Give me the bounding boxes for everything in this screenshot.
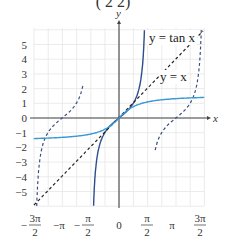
x-tick-numerator: 3π: [29, 212, 41, 224]
x-tick-numerator: π: [85, 212, 91, 224]
x-tick-label: −π: [53, 219, 65, 231]
x-tick-denominator: 2: [144, 226, 150, 238]
y-tick-label: −5: [15, 186, 27, 198]
x-tick-label: 0: [116, 219, 122, 231]
x-tick-denominator: 2: [197, 226, 203, 238]
y-tick-label: 5: [22, 39, 28, 51]
chart: ( 2 2) xy 543210−1−2−3−4−53π2−−ππ2−0π2π3…: [0, 0, 226, 242]
identity-curve-label: y = x: [160, 69, 187, 84]
y-axis-label: y: [115, 7, 121, 19]
y-tick-label: −1: [15, 127, 27, 139]
x-axis-label: x: [212, 112, 218, 124]
y-tick-label: 0: [22, 112, 28, 124]
x-tick-label: π2−: [74, 212, 94, 238]
x-tick-sign: −: [74, 219, 80, 231]
y-tick-label: 2: [22, 83, 28, 95]
x-tick-label: 3π2: [194, 212, 206, 238]
y-tick-label: 4: [22, 53, 28, 65]
x-tick-value: −π: [53, 219, 65, 231]
x-tick-label: π2: [141, 212, 153, 238]
x-tick-label: π: [169, 219, 175, 231]
x-tick-value: 0: [116, 219, 122, 231]
series-tan-x-left-branch-: [37, 86, 83, 206]
x-axis-arrow: [207, 116, 211, 120]
y-tick-label: −2: [15, 141, 27, 153]
x-tick-denominator: 2: [32, 226, 38, 238]
y-tick-label: −4: [15, 171, 27, 183]
x-tick-sign: −: [21, 219, 27, 231]
x-tick-value: π: [169, 219, 175, 231]
x-tick-label: 3π2−: [21, 212, 41, 238]
y-tick-label: 3: [22, 68, 28, 80]
curve-labels: y = tan xy = x: [147, 30, 197, 84]
x-tick-numerator: 3π: [194, 212, 206, 224]
y-axis-arrow: [117, 20, 121, 24]
tan-curve-label: y = tan x: [149, 30, 195, 45]
cut-title-fragment: ( 2 2): [96, 0, 131, 11]
y-tick-label: −3: [15, 156, 27, 168]
x-tick-numerator: π: [144, 212, 150, 224]
y-tick-label: 1: [22, 97, 28, 109]
x-tick-denominator: 2: [85, 226, 91, 238]
